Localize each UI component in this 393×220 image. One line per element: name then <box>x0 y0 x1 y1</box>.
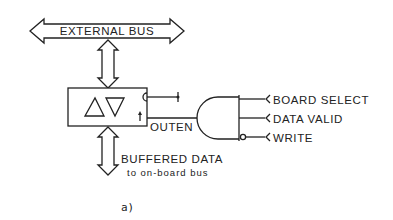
bus-to-buffer-arrow <box>98 40 118 88</box>
input-label-board-select: BOARD SELECT <box>273 94 369 106</box>
input-label-data-valid: DATA VALID <box>273 113 343 125</box>
buffered-data-sublabel: to on-board bus <box>127 167 209 178</box>
buffered-data-arrow <box>98 127 118 175</box>
input-arrow-data-valid <box>266 114 270 122</box>
and-gate <box>197 97 239 139</box>
external-bus-label: EXTERNAL BUS <box>60 25 154 37</box>
outen-label: OUTEN <box>150 121 193 133</box>
input-label-write: WRITE <box>273 132 313 144</box>
enable-dot <box>177 96 180 99</box>
buffered-data-label: BUFFERED DATA <box>121 153 223 165</box>
buffer-box <box>68 88 147 126</box>
input-arrow-board-select <box>266 95 270 103</box>
figure-caption: a) <box>121 201 134 214</box>
bus-buffer-diagram: EXTERNAL BUS OUTEN BOARD SELECT DATA VAL… <box>0 0 393 220</box>
inversion-bubble-icon <box>240 134 245 139</box>
input-arrow-write <box>266 133 270 141</box>
